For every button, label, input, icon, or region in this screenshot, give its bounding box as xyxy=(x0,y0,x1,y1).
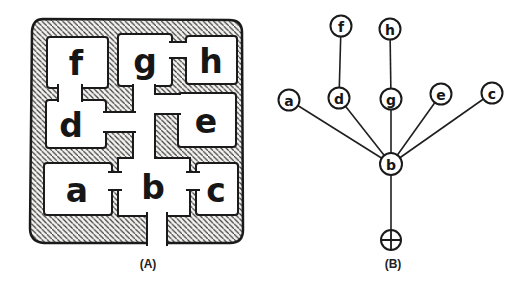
node-a-label: a xyxy=(284,93,293,109)
door-b-c xyxy=(184,172,202,190)
door-d-b xyxy=(100,112,138,132)
edge-a-b xyxy=(289,100,391,164)
node-c: c xyxy=(482,83,503,104)
node-e-label: e xyxy=(436,87,446,103)
node-d: d xyxy=(329,88,350,109)
room-f-label: f xyxy=(69,44,84,83)
node-a: a xyxy=(279,90,300,111)
door-g-h xyxy=(166,42,190,58)
caption-b: (B) xyxy=(385,257,402,271)
room-d-label: d xyxy=(59,106,83,145)
door-entrance xyxy=(147,210,167,248)
entrance-node xyxy=(381,230,401,250)
node-c-label: c xyxy=(488,86,496,102)
room-b-label: b xyxy=(141,168,165,207)
edge-d-b xyxy=(339,98,391,164)
access-graph: f h a d g e c xyxy=(263,0,526,295)
room-a-label: a xyxy=(66,171,88,210)
floor-plan-panel: f g h d e a b c (A) xyxy=(0,0,263,295)
graph-edges xyxy=(289,26,492,240)
door-e-b xyxy=(152,94,182,114)
figure: f g h d e a b c (A) xyxy=(0,0,526,295)
caption-a: (A) xyxy=(140,257,157,271)
node-h-label: h xyxy=(385,22,395,38)
door-a-b xyxy=(106,172,124,190)
node-b: b xyxy=(380,153,402,175)
access-graph-panel: f h a d g e c xyxy=(263,0,526,295)
node-d-label: d xyxy=(334,91,344,107)
node-h: h xyxy=(380,19,401,40)
room-e-label: e xyxy=(195,102,217,141)
node-e: e xyxy=(431,84,452,105)
node-b-label: b xyxy=(386,157,396,173)
node-f-label: f xyxy=(338,19,345,35)
room-c-label: c xyxy=(206,171,226,210)
room-g-label: g xyxy=(133,42,157,81)
node-g-label: g xyxy=(386,92,396,108)
node-g: g xyxy=(381,89,402,110)
room-h-label: h xyxy=(199,42,223,81)
node-f: f xyxy=(331,16,352,37)
door-f-d xyxy=(58,82,82,104)
floor-plan: f g h d e a b c (A) xyxy=(0,0,263,295)
